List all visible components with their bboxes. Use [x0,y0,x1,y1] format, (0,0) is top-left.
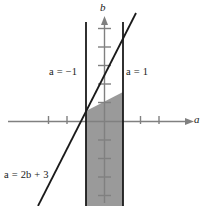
vertical-axis-label: b [100,2,106,13]
label-a-equals-1: a = 1 [126,67,148,78]
horizontal-axis-label: a [194,114,200,125]
label-a-equals-2b-plus-3: a = 2b + 3 [4,170,49,181]
math-figure: b a a = −1 a = 1 a = 2b + 3 [0,0,205,206]
label-a-equals-neg-1: a = −1 [49,67,77,78]
